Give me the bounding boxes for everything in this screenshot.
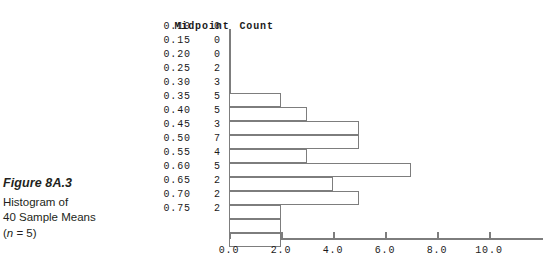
x-axis-line	[229, 238, 543, 240]
x-axis-tick	[333, 232, 335, 239]
caption-line-2: 40 Sample Means	[3, 210, 123, 225]
cell-count: 0	[191, 34, 221, 48]
x-axis-tick	[281, 232, 283, 239]
histogram-bar	[229, 219, 281, 233]
cell-count: 7	[191, 132, 221, 146]
cell-midpoint: 0.20	[133, 48, 191, 62]
cell-count: 3	[191, 118, 221, 132]
x-axis-tick-label: 2.0	[271, 245, 292, 256]
cell-midpoint: 0.70	[133, 188, 191, 202]
x-axis-tick-label: 4.0	[323, 245, 344, 256]
x-axis-tick	[489, 232, 491, 239]
x-axis-tick-label: 10.0	[475, 245, 503, 256]
x-axis-tick	[229, 232, 231, 239]
cell-midpoint: 0.15	[133, 34, 191, 48]
table-row: 0.652	[133, 174, 269, 188]
cell-midpoint: 0.55	[133, 146, 191, 160]
x-axis-tick-label: 8.0	[427, 245, 448, 256]
caption-line-1: Histogram of	[3, 195, 123, 210]
cell-count: 2	[191, 62, 221, 76]
cell-count: 5	[191, 160, 221, 174]
figure-container: Figure 8A.3 Histogram of 40 Sample Means…	[0, 0, 558, 271]
cell-count: 2	[191, 174, 221, 188]
cell-midpoint: 0.60	[133, 160, 191, 174]
x-axis-tick-label: 6.0	[375, 245, 396, 256]
table-row: 0.453	[133, 118, 269, 132]
cell-count: 0	[191, 48, 221, 62]
table-body: 0.1000.1500.2000.2520.3030.3550.4050.453…	[133, 20, 269, 216]
cell-midpoint: 0.75	[133, 202, 191, 216]
table-row: 0.752	[133, 202, 269, 216]
x-axis-tick	[437, 232, 439, 239]
cell-count: 2	[191, 188, 221, 202]
table-row: 0.303	[133, 76, 269, 90]
midpoint-count-table: MidpointCount 0.1000.1500.2000.2520.3030…	[133, 6, 269, 216]
table-row: 0.355	[133, 90, 269, 104]
cell-count: 5	[191, 90, 221, 104]
cell-midpoint: 0.10	[133, 20, 191, 34]
table-row: 0.405	[133, 104, 269, 118]
cell-count: 5	[191, 104, 221, 118]
table-row: 0.507	[133, 132, 269, 146]
figure-description: Histogram of 40 Sample Means (n = 5)	[3, 195, 123, 241]
table-row: 0.150	[133, 34, 269, 48]
cell-count: 2	[191, 202, 221, 216]
figure-caption: Figure 8A.3 Histogram of 40 Sample Means…	[3, 176, 123, 241]
table-row: 0.252	[133, 62, 269, 76]
caption-line-3: (n = 5)	[3, 226, 123, 241]
cell-midpoint: 0.40	[133, 104, 191, 118]
x-axis-tick-label: 0.0	[219, 245, 240, 256]
column-header-count: Count	[232, 20, 269, 34]
cell-midpoint: 0.50	[133, 132, 191, 146]
cell-count: 0	[191, 20, 221, 34]
table-row: 0.554	[133, 146, 269, 160]
cell-count: 4	[191, 146, 221, 160]
table-row: 0.200	[133, 48, 269, 62]
cell-midpoint: 0.25	[133, 62, 191, 76]
figure-number: Figure 8A.3	[3, 176, 123, 190]
cell-midpoint: 0.65	[133, 174, 191, 188]
cell-midpoint: 0.35	[133, 90, 191, 104]
caption-n-value: = 5)	[13, 227, 36, 239]
histogram-bar	[229, 233, 281, 247]
cell-midpoint: 0.45	[133, 118, 191, 132]
table-row: 0.605	[133, 160, 269, 174]
x-axis-tick	[385, 232, 387, 239]
cell-count: 3	[191, 76, 221, 90]
table-header-row: MidpointCount	[133, 6, 269, 20]
cell-midpoint: 0.30	[133, 76, 191, 90]
table-row: 0.702	[133, 188, 269, 202]
